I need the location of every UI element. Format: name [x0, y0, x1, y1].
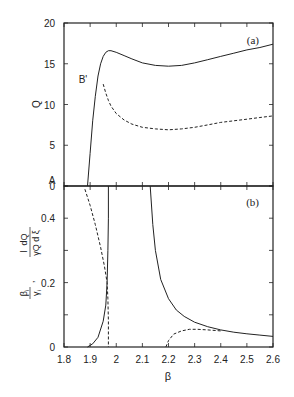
- series-dashed: [103, 84, 273, 130]
- svg-text:γi: γi: [31, 290, 42, 296]
- series-solid-right: [150, 186, 273, 336]
- x-tick-label: 2.4: [214, 354, 228, 365]
- x-tick-label: 2.2: [162, 354, 176, 365]
- plot-frame: [64, 186, 273, 347]
- svg-text:βi: βi: [19, 290, 30, 297]
- y-axis-label-q: Q: [31, 100, 42, 108]
- x-tick-label: 1.8: [57, 354, 71, 365]
- x-tick-label: 2.5: [240, 354, 254, 365]
- figure: 05101520 1.81.922.12.22.32.42.52.600.20.…: [0, 0, 294, 397]
- x-tick-label: 2: [113, 354, 119, 365]
- y-axis-label-b: βi γi , l dQ γQ d ξ: [19, 227, 42, 299]
- panel-a-label: (a): [247, 34, 260, 47]
- y-tick-label: 0.2: [41, 278, 55, 289]
- x-tick-label: 2.3: [188, 354, 202, 365]
- y-tick-label: 5: [49, 140, 55, 151]
- series-solid: [88, 44, 274, 186]
- x-tick-label: 2.6: [266, 354, 280, 365]
- svg-text:γQ d ξ: γQ d ξ: [31, 230, 41, 256]
- y-tick-label: 0.4: [41, 213, 55, 224]
- plot-frame: [64, 23, 273, 186]
- annotation-a: A: [49, 175, 56, 186]
- x-tick-label: 2.1: [135, 354, 149, 365]
- y-tick-label: 10: [44, 100, 56, 111]
- panel-a: 05101520: [44, 18, 273, 192]
- series-dashed-right: [166, 329, 221, 347]
- y-tick-label: 15: [44, 59, 56, 70]
- svg-text:l dQ: l dQ: [19, 233, 29, 252]
- x-axis-label-beta: β: [165, 370, 171, 382]
- panel-b-label: (b): [246, 196, 259, 209]
- series-dashed-left: [85, 189, 109, 347]
- annotation-b-prime: B': [79, 74, 88, 85]
- y-tick-label: 20: [44, 18, 56, 29]
- series-solid-left: [88, 186, 109, 347]
- panel-b: 1.81.922.12.22.32.42.52.600.20.4: [41, 186, 280, 365]
- x-tick-label: 1.9: [83, 354, 97, 365]
- y-tick-label: 0: [49, 342, 55, 353]
- svg-text:,: ,: [26, 280, 36, 283]
